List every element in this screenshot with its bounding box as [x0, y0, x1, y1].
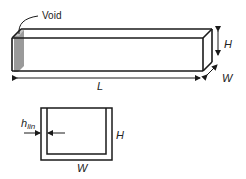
- liner-thickness-label: hlin: [21, 117, 36, 131]
- section-height-label: H: [116, 129, 124, 141]
- diagram-canvas: Void L H W hlin H W: [0, 0, 246, 179]
- void-block: [14, 30, 24, 72]
- section-width-label: W: [77, 162, 89, 174]
- width-label: W: [222, 72, 234, 84]
- height-label: H: [224, 38, 232, 50]
- void-label: Void: [42, 10, 61, 21]
- beam-3d: [12, 29, 212, 72]
- cross-section: [41, 108, 119, 160]
- length-label: L: [97, 80, 103, 92]
